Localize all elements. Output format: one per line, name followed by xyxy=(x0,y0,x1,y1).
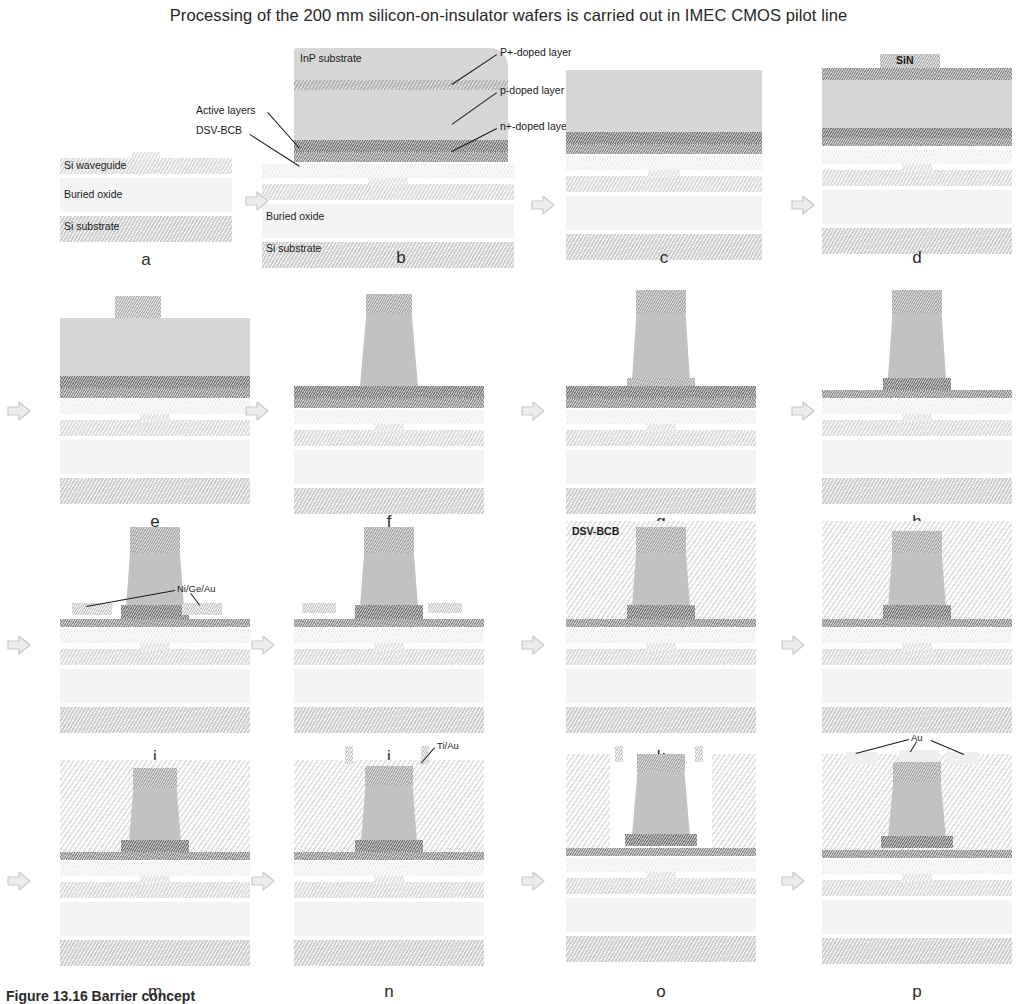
flow-arrow-i-j xyxy=(250,632,276,658)
flow-arrow-n-o xyxy=(520,868,546,894)
layer-si-waveguide xyxy=(822,880,1012,896)
flow-arrow-d-e xyxy=(6,398,32,424)
flow-arrow-h-i xyxy=(6,632,32,658)
layer-n-plus-doped xyxy=(822,850,1012,858)
flow-arrow-o-p xyxy=(780,868,806,894)
flow-arrow-f-g xyxy=(520,398,546,424)
layer-dvs-bcb xyxy=(822,860,1012,874)
flow-arrow-k-l xyxy=(780,632,806,658)
flow-arrow-l-m xyxy=(6,868,32,894)
flow-arrow-a-b xyxy=(244,188,270,214)
flow-arrow-g-h xyxy=(790,398,816,424)
flow-arrow-e-f xyxy=(244,398,270,424)
sin-cap xyxy=(893,762,941,782)
si-waveguide-rib xyxy=(902,874,932,882)
figure-caption: Figure 13.16 Barrier concept xyxy=(6,988,1006,1004)
active-stripe xyxy=(881,836,953,848)
au-contact-left xyxy=(846,752,878,764)
au-contact-centre xyxy=(899,750,939,762)
layer-buried-oxide xyxy=(822,900,1012,934)
flow-arrow-j-k xyxy=(520,632,546,658)
flow-arrow-m-n xyxy=(250,868,276,894)
flow-arrow-b-c xyxy=(530,192,556,218)
flow-arrow-c-d xyxy=(790,192,816,218)
layer-si-substrate xyxy=(822,938,1012,964)
